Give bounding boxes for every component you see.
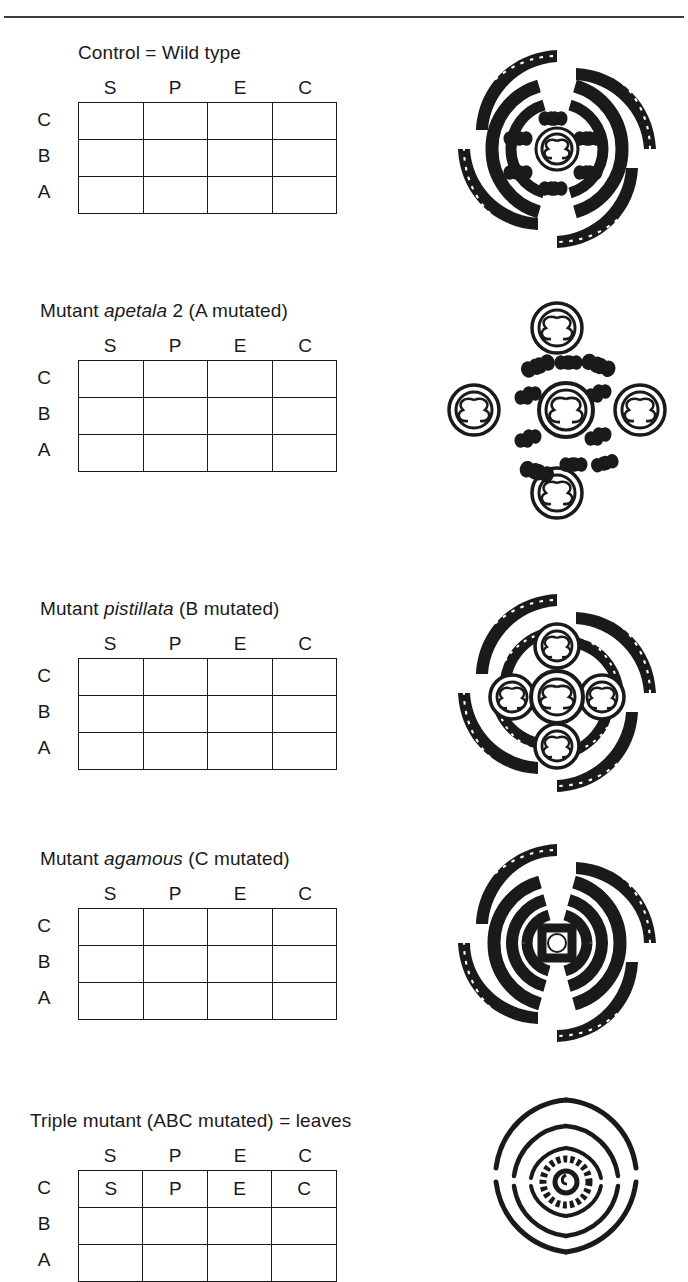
pistillata-floral-diagram-svg <box>432 584 682 809</box>
leaf-center <box>543 1159 589 1205</box>
carpel-center <box>539 383 593 437</box>
abc-cell-b-p <box>143 946 208 983</box>
row-labels-apetala2: C B A <box>30 360 58 468</box>
title-text-prefix: Mutant <box>40 300 104 321</box>
column-header-p: P <box>143 1142 207 1170</box>
row-label-a: A <box>30 174 58 210</box>
abc-cell-a-p <box>143 1245 207 1282</box>
abc-grid-row-c <box>79 103 337 140</box>
row-label-a: A <box>30 432 58 468</box>
column-headers-pistillata: S P E C <box>0 630 420 658</box>
abc-cell-c-p <box>143 361 208 398</box>
abc-cell-c-e: E <box>207 1171 271 1208</box>
abc-cell-a-p <box>143 733 208 770</box>
panel-pistillata-left: Mutant pistillata (B mutated) S P E C C … <box>0 598 420 770</box>
abc-cell-c-s <box>79 659 144 696</box>
abc-cell-b-c <box>272 140 337 177</box>
abc-cell-a-p <box>143 177 208 214</box>
grid-wrapper-agamous: C B A <box>0 908 420 1020</box>
abc-cell-a-s <box>79 177 144 214</box>
column-headers-control: S P E C <box>0 74 420 102</box>
abc-grid-row-b <box>79 140 337 177</box>
flower-apetala2 <box>432 288 688 533</box>
abc-cell-a-s <box>79 435 144 472</box>
column-header-e: E <box>208 630 272 658</box>
abc-cell-a-e <box>208 435 273 472</box>
abc-cell-c-e <box>208 659 273 696</box>
grid-wrapper-apetala2: C B A <box>0 360 420 472</box>
abc-cell-a-c <box>272 177 337 214</box>
abc-cell-c-e <box>208 361 273 398</box>
abc-cell-a-c <box>272 983 337 1020</box>
title-text-suffix: (C mutated) <box>183 848 290 869</box>
abc-cell-a-p <box>143 983 208 1020</box>
abc-cell-c-p <box>143 659 208 696</box>
abc-cell-b-e <box>208 696 273 733</box>
abc-cell-a-c <box>272 435 337 472</box>
abc-cell-b-c <box>272 1208 337 1245</box>
column-header-s: S <box>78 74 142 102</box>
abc-grid-row-b <box>79 1208 337 1245</box>
abc-grid-row-a <box>79 435 337 472</box>
column-header-e: E <box>208 880 272 908</box>
abc-cell-c-s: S <box>79 1171 143 1208</box>
row-label-a: A <box>30 1242 58 1278</box>
title-text-suffix: (B mutated) <box>174 598 280 619</box>
page-top-rule <box>4 16 684 18</box>
column-header-p: P <box>143 332 207 360</box>
row-label-b: B <box>30 138 58 174</box>
title-text: Control = Wild type <box>78 42 241 63</box>
row-labels-pistillata: C B A <box>30 658 58 766</box>
title-text: Triple mutant (ABC mutated) = leaves <box>30 1110 351 1131</box>
panel-title-apetala2: Mutant apetala 2 (A mutated) <box>0 300 420 322</box>
row-label-c: C <box>30 908 58 944</box>
column-headers-triple: S P E C <box>0 1142 420 1170</box>
panel-title-triple-mutant: Triple mutant (ABC mutated) = leaves <box>0 1110 420 1132</box>
abc-grid-row-a <box>79 177 337 214</box>
row-label-b: B <box>30 694 58 730</box>
abc-grid-row-b <box>79 946 337 983</box>
abc-cell-c-c <box>272 361 337 398</box>
row-label-a: A <box>30 730 58 766</box>
abc-grid-row-c: SPEC <box>79 1171 337 1208</box>
abc-grid-control <box>78 102 337 214</box>
abc-cell-c-s <box>79 361 144 398</box>
apetala2-floral-diagram-svg <box>432 288 682 533</box>
center-meristem <box>542 928 572 958</box>
column-header-s: S <box>78 332 142 360</box>
flower-triple-mutant <box>448 1090 688 1270</box>
abc-cell-b-s <box>79 398 144 435</box>
panel-title-agamous: Mutant agamous (C mutated) <box>0 848 420 870</box>
abc-cell-c-e <box>208 909 273 946</box>
abc-cell-a-p <box>143 435 208 472</box>
column-header-c: C <box>273 630 337 658</box>
abc-grid-apetala2 <box>78 360 337 472</box>
abc-cell-c-p <box>143 103 208 140</box>
abc-cell-b-e <box>208 398 273 435</box>
column-header-c: C <box>273 880 337 908</box>
abc-cell-a-e <box>208 983 273 1020</box>
abc-grid-row-a <box>79 983 337 1020</box>
row-label-b: B <box>30 1206 58 1242</box>
title-text-prefix: Mutant <box>40 848 104 869</box>
abc-cell-b-c <box>272 946 337 983</box>
abc-grid-agamous <box>78 908 337 1020</box>
abc-cell-b-s <box>79 946 144 983</box>
title-text-gene: apetala <box>104 300 167 321</box>
column-header-p: P <box>143 630 207 658</box>
abc-cell-c-c <box>272 103 337 140</box>
abc-cell-c-e <box>208 103 273 140</box>
grid-wrapper-triple: C B A SPEC <box>0 1170 420 1282</box>
abc-cell-c-p <box>143 909 208 946</box>
column-header-s: S <box>78 630 142 658</box>
triple-mutant-floral-diagram-svg <box>448 1090 684 1270</box>
abc-cell-a-s <box>79 1245 143 1282</box>
abc-cell-b-s <box>79 140 144 177</box>
column-header-c: C <box>273 74 337 102</box>
abc-cell-c-c <box>272 659 337 696</box>
panel-agamous-left: Mutant agamous (C mutated) S P E C C B A <box>0 848 420 1020</box>
title-text-prefix: Mutant <box>40 598 104 619</box>
panel-title-control: Control = Wild type <box>0 42 420 64</box>
abc-cell-c-s <box>79 103 144 140</box>
column-header-s: S <box>78 880 142 908</box>
